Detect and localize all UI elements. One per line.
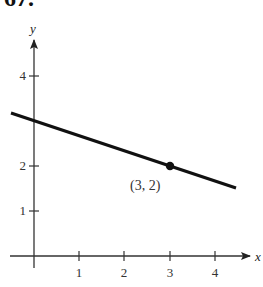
y-axis-label: y [28, 21, 36, 36]
data-point [166, 162, 174, 170]
x-axis-label: x [254, 249, 261, 264]
svg-text:3: 3 [167, 265, 174, 280]
data-line [11, 113, 236, 188]
point-label: (3, 2) [130, 178, 161, 194]
y-tick-labels: 1 2 4 [20, 68, 27, 218]
svg-text:2: 2 [121, 265, 128, 280]
svg-text:4: 4 [212, 265, 219, 280]
svg-text:1: 1 [20, 203, 27, 218]
svg-text:4: 4 [20, 68, 27, 83]
x-tick-labels: 1 2 3 4 [76, 265, 219, 280]
svg-text:1: 1 [76, 265, 83, 280]
line-graph: x y 1 2 3 4 1 2 4 (3, 2) [0, 0, 263, 287]
svg-text:2: 2 [20, 158, 27, 173]
